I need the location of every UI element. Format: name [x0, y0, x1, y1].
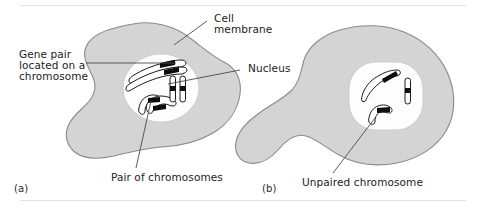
- label-unpaired-chromosome: Unpaired chromosome: [302, 177, 423, 189]
- panel-b-cell: [236, 26, 454, 173]
- figure-container: Cell membrane Nucleus Gene pair located …: [0, 0, 486, 213]
- gene-marker-unpaired: [377, 107, 390, 113]
- label-cell-membrane-line2: membrane: [214, 24, 272, 36]
- label-gene-pair-line3: chromosome: [19, 71, 88, 83]
- paired-chromosome-right: [180, 76, 186, 102]
- label-nucleus: Nucleus: [248, 63, 291, 75]
- panel-a-cell: [66, 21, 240, 168]
- panel-caption-b: (b): [262, 183, 276, 195]
- paired-chromosome-left: [170, 76, 176, 102]
- panel-caption-a: (a): [14, 183, 28, 195]
- label-pair-of-chromosomes: Pair of chromosomes: [111, 172, 223, 184]
- vertical-rod-chromosome: [405, 78, 411, 104]
